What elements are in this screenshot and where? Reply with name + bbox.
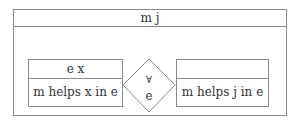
right-box: m helps j in e: [176, 59, 269, 107]
right-box-body: m helps j in e: [177, 78, 268, 106]
quantifier-symbol: ∀: [146, 74, 152, 85]
connector-label: e: [145, 89, 152, 103]
right-box-header: [177, 60, 268, 79]
